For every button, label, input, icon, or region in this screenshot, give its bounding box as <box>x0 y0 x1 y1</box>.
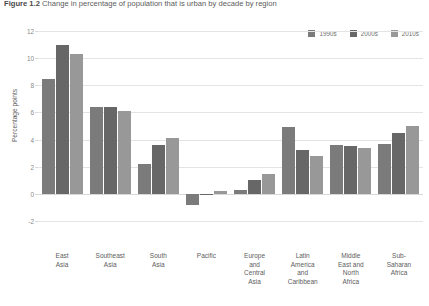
bar-slot <box>104 31 117 221</box>
x-axis-label-line: Asia <box>135 261 181 270</box>
x-axis-label-line: East <box>39 252 85 261</box>
x-axis-label-line: Pacific <box>183 252 229 261</box>
bar-2010s <box>166 138 179 194</box>
bar-group <box>134 31 182 221</box>
x-axis-label: MiddleEast andNorthAfrica <box>327 252 375 286</box>
x-axis-label: SouthAsia <box>134 252 182 286</box>
bar-slot <box>358 31 371 221</box>
bar-1990s <box>234 190 247 194</box>
figure-title: Figure 1.2 Change in percentage of popul… <box>4 0 429 9</box>
figure-title-text: Change in percentage of population that … <box>42 0 277 8</box>
bar-slot <box>406 31 419 221</box>
y-axis-title: Percentage points <box>11 66 18 166</box>
bar-slot <box>42 31 55 221</box>
bar-1990s <box>138 164 151 194</box>
bar-slot <box>248 31 261 221</box>
bar-2000s <box>248 180 261 194</box>
x-axis-label-line: Saharan <box>376 261 422 270</box>
x-axis-label: EastAsia <box>38 252 86 286</box>
bar-2000s <box>152 145 165 194</box>
bar-1990s <box>42 79 55 194</box>
x-axis-label-line: East and <box>328 261 374 270</box>
x-axis-label-line: Africa <box>328 278 374 287</box>
x-axis-label: Pacific <box>182 252 230 286</box>
bar-2000s <box>104 107 117 194</box>
figure-number: Figure 1.2 <box>4 0 40 8</box>
bar-slot <box>392 31 405 221</box>
bar-slot <box>310 31 323 221</box>
x-axis-label-line: Sub- <box>376 252 422 261</box>
x-axis-label: Sub-SaharanAfrica <box>375 252 423 286</box>
x-axis-label: SoutheastAsia <box>86 252 134 286</box>
bar-2000s <box>344 146 357 194</box>
bar-group <box>375 31 423 221</box>
bar-slot <box>90 31 103 221</box>
x-axis-label-line: Middle <box>328 252 374 261</box>
bar-slot <box>166 31 179 221</box>
bar-slot <box>200 31 213 221</box>
y-tick-label-6: 6 <box>30 109 34 116</box>
bar-slot <box>214 31 227 221</box>
bar-slot <box>234 31 247 221</box>
bar-1990s <box>282 127 295 194</box>
bar-1990s <box>378 144 391 194</box>
bar-slot <box>118 31 131 221</box>
bar-slot <box>56 31 69 221</box>
x-axis-label-line: Asia <box>232 278 278 287</box>
bar-2000s <box>392 133 405 194</box>
bar-slot <box>138 31 151 221</box>
bar-1990s <box>330 145 343 194</box>
y-tick-label-4: 4 <box>30 136 34 143</box>
bar-2000s <box>200 194 213 195</box>
tickmark--2 <box>35 221 38 222</box>
bar-1990s <box>186 194 199 205</box>
x-axis-label-line: Latin <box>280 252 326 261</box>
bar-slot <box>70 31 83 221</box>
bar-slot <box>378 31 391 221</box>
bar-group <box>327 31 375 221</box>
x-axis-labels: EastAsiaSoutheastAsiaSouthAsiaPacificEur… <box>38 252 423 286</box>
bar-group <box>279 31 327 221</box>
y-tick-label-10: 10 <box>27 55 34 62</box>
y-tick-label-0: 0 <box>30 190 34 197</box>
x-axis-label-line: America <box>280 261 326 270</box>
x-axis-label-line: Caribbean <box>280 278 326 287</box>
bar-2000s <box>56 45 69 194</box>
bar-slot <box>186 31 199 221</box>
x-axis-label-line: Asia <box>87 261 133 270</box>
bar-group <box>38 31 86 221</box>
x-axis-label-line: Europe <box>232 252 278 261</box>
y-tick-label-12: 12 <box>27 28 34 35</box>
bar-2010s <box>70 54 83 194</box>
gridline--2 <box>38 221 423 222</box>
x-axis-label-line: and <box>280 269 326 278</box>
x-axis-label: LatinAmericaandCaribbean <box>279 252 327 286</box>
x-axis-label-line: and <box>232 261 278 270</box>
bar-2000s <box>296 150 309 193</box>
bar-slot <box>344 31 357 221</box>
x-axis-label-line: Asia <box>39 261 85 270</box>
figure-container: Figure 1.2 Change in percentage of popul… <box>0 0 429 306</box>
bar-1990s <box>90 107 103 194</box>
plot-area: 121086420-2 <box>38 31 423 221</box>
bar-2010s <box>358 148 371 194</box>
bar-2010s <box>310 156 323 194</box>
bar-slot <box>262 31 275 221</box>
y-tick-label-8: 8 <box>30 82 34 89</box>
bar-groups <box>38 31 423 221</box>
x-axis-label-line: Southeast <box>87 252 133 261</box>
bar-slot <box>330 31 343 221</box>
bar-2010s <box>118 111 131 194</box>
bar-2010s <box>406 126 419 194</box>
bar-slot <box>152 31 165 221</box>
x-axis-label-line: South <box>135 252 181 261</box>
x-axis-label-line: Central <box>232 269 278 278</box>
bar-group <box>86 31 134 221</box>
y-tick-label-2: 2 <box>30 163 34 170</box>
bar-group <box>182 31 230 221</box>
x-axis-label-line: Africa <box>376 269 422 278</box>
bar-slot <box>282 31 295 221</box>
bar-2010s <box>262 174 275 194</box>
bar-slot <box>296 31 309 221</box>
x-axis-label-line: North <box>328 269 374 278</box>
